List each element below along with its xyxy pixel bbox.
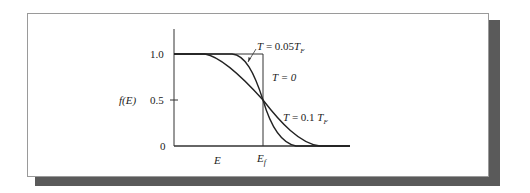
- tick-label-1: 1.0: [150, 48, 164, 60]
- annotation-t01: T = 0.1 TF: [283, 111, 328, 126]
- ef-label: Ef: [256, 152, 268, 167]
- tick-label-05: 0.5: [150, 94, 164, 106]
- annotation-t005: T = 0.05TF: [257, 40, 305, 55]
- y-axis-label: f(E): [119, 94, 136, 107]
- annotation-t0: T = 0: [272, 71, 297, 83]
- curve-t005: [174, 54, 350, 146]
- tick-label-0: 0: [160, 140, 166, 152]
- fermi-dirac-chart: 1.0 0.5 0 f(E) E Ef T = 0.05TF T = 0 T =…: [0, 0, 530, 193]
- x-axis-label: E: [213, 154, 221, 166]
